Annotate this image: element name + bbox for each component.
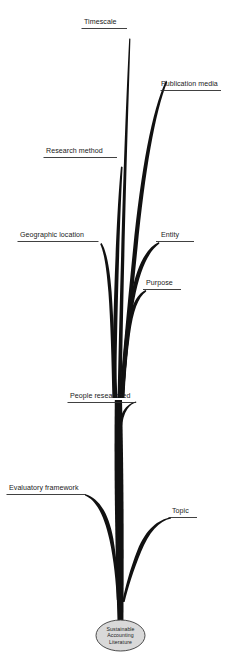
branch-label-publication-media: Publication media: [161, 81, 218, 88]
branch-label-research-method: Research method: [46, 148, 103, 155]
branch-label-entity: Entity: [161, 232, 179, 239]
branch-label-topic: Topic: [172, 508, 189, 515]
tree-canvas: Sustainable Accounting Literature: [0, 0, 225, 666]
root-node-line3: Literature: [109, 639, 132, 645]
branch-label-evaluatory-framework: Evaluatory framework: [9, 485, 79, 492]
trunk-stem: [115, 400, 124, 624]
branch-label-purpose: Purpose: [146, 280, 173, 287]
root-node-line1: Sustainable: [106, 626, 134, 632]
branch-topic: [122, 517, 171, 602]
root-node-line2: Accounting: [107, 632, 134, 638]
branch-label-timescale: Timescale: [84, 19, 117, 26]
branch-label-geographic-location: Geographic location: [20, 232, 84, 239]
tree-diagram: Sustainable Accounting Literature Timesc…: [0, 0, 225, 666]
branch-label-people-researched: People researched: [70, 393, 130, 400]
branch-evaluatory-framework: [85, 494, 119, 600]
